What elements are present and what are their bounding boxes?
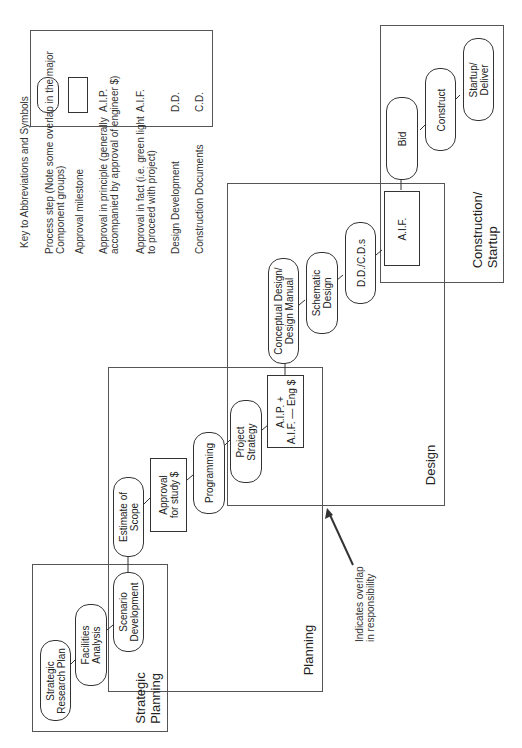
strategic-planning-label-wrap: Strategic Planning (130, 665, 166, 731)
overlap-annotation: Indicates overlap in responsibility (354, 566, 376, 642)
step-startup-deliver[interactable]: Startup/ Deliver (463, 38, 494, 121)
construction-startup-label: Construction/ Startup (470, 192, 500, 269)
construction-label-wrap: Construction/ Startup (468, 185, 502, 275)
step-facilities-analysis[interactable]: Facilities Analysis (75, 604, 107, 686)
step-construct[interactable]: Construct (425, 68, 456, 151)
step-schematic-design[interactable]: Schematic Design (306, 252, 338, 334)
milestone-aif[interactable]: A.I.F. (384, 191, 420, 266)
step-bid[interactable]: Bid (386, 97, 418, 180)
milestone-approval-for-study[interactable]: Approval for study $ (150, 458, 187, 532)
design-label: Design (423, 445, 438, 485)
design-label-wrap: Design (420, 440, 440, 490)
planning-label-wrap: Planning (298, 620, 318, 680)
step-scenario-development[interactable]: Scenario Development (113, 572, 144, 652)
step-project-strategy[interactable]: Project Strategy (230, 400, 262, 483)
step-dd-cds[interactable]: D.D./C.D.s (345, 222, 376, 304)
planning-label: Planning (301, 625, 316, 676)
step-conceptual-design[interactable]: Conceptual Design/ Design Manual (268, 258, 299, 364)
milestone-aip-aif-eng[interactable]: A.I.P. + A.I.F. — Eng $ (267, 375, 304, 448)
step-estimate-of-scope[interactable]: Estimate of Scope (113, 477, 144, 557)
strategic-planning-label: Strategic Planning (133, 672, 163, 723)
step-programming[interactable]: Programming (193, 432, 225, 514)
step-strategic-research-plan[interactable]: Strategic Research Plan (40, 640, 71, 721)
